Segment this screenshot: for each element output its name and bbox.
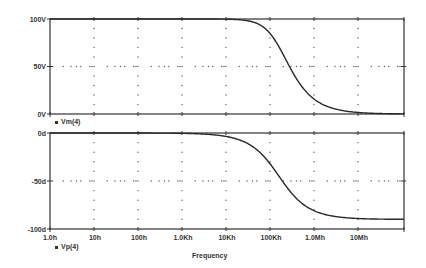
ytick-label: 100V bbox=[30, 16, 47, 23]
legend-magnitude: Vm(4) bbox=[55, 118, 80, 125]
x-axis-title: Frequency bbox=[192, 252, 227, 259]
xtick-label: 1.0Kh bbox=[173, 234, 192, 241]
xtick-label: 100h bbox=[131, 234, 147, 241]
ytick-label: 50V bbox=[34, 63, 47, 70]
phase-curve bbox=[50, 133, 404, 219]
xtick-label: 100Kh bbox=[260, 234, 281, 241]
xtick-label: 10Mh bbox=[350, 234, 368, 241]
magnitude-panel-frame bbox=[50, 19, 404, 114]
ytick-label: -50d bbox=[32, 178, 46, 185]
legend-marker-icon bbox=[55, 121, 58, 124]
legend-label: Vp(4) bbox=[61, 243, 79, 250]
bode-plot: 100V 50V 0V 0d -50d -100d 1.0h 10h 100h … bbox=[0, 0, 426, 268]
ytick-label: 0d bbox=[38, 130, 46, 137]
top-panel-grid bbox=[47, 17, 406, 117]
xtick-label: 1.0h bbox=[43, 234, 57, 241]
legend-marker-icon bbox=[55, 246, 58, 249]
legend-label: Vm(4) bbox=[61, 118, 80, 125]
magnitude-curve bbox=[50, 19, 404, 114]
xtick-label: 10h bbox=[89, 234, 101, 241]
xtick-label: 1.0Mh bbox=[305, 234, 325, 241]
legend-phase: Vp(4) bbox=[55, 243, 79, 250]
ytick-label: -100d bbox=[28, 226, 46, 233]
ytick-label: 0V bbox=[37, 111, 46, 118]
bottom-panel-grid bbox=[47, 131, 406, 232]
phase-panel-frame bbox=[50, 133, 404, 229]
xtick-label: 10Kh bbox=[218, 234, 235, 241]
